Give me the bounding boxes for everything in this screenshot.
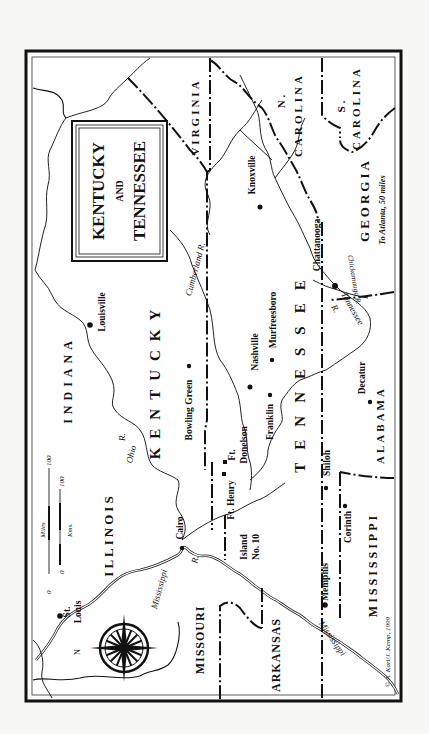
city-label-cairo: Cairo [175,516,185,539]
city-label-knoxville: Knoxville [247,155,257,194]
city-label-ft-henry: Ft. Henry [226,480,236,520]
title-line3: TENNESSEE [130,141,149,241]
corinth-dot [343,504,347,508]
scale-kms-label: Kms. [66,523,74,538]
bowling-green-dot [187,364,191,368]
city-label-chattanooga: Chattanooga [312,219,322,272]
compass-n-label: N [73,649,82,655]
state-label-georgia: GEORGIA [357,158,372,242]
scale-kms-max: 100 [58,476,66,487]
state-label-illinois: ILLINOIS [101,493,116,576]
franklin-dot [268,393,272,397]
decatur-dot [368,400,372,404]
city-label-murfreesboro: Murfreesboro [268,291,278,348]
state-label-nc-abbr: N. [275,92,287,109]
city-label-franklin: Franklin [265,403,275,440]
city-label-nashville: Nashville [250,333,260,370]
title-line1: KENTUCKY [89,142,108,240]
credit-line: © A. Karl/J. Kemp, 1999 [384,617,392,687]
city-label-island-no10-2: No. 10 [251,534,261,560]
shiloh-dot [324,486,328,490]
state-label-mississippi: MISSISSIPPI [366,513,380,617]
state-label-arkansas: ARKANSAS [269,618,283,692]
city-label-decatur: Decatur [357,361,367,394]
scale-kms-zero: 0 [58,570,66,574]
state-label-sc-abbr: S. [335,98,347,113]
city-label-st-louis-1: St. [62,607,72,618]
city-label-island-no10-1: Island [239,534,249,560]
title-line2: AND [114,180,125,202]
city-label-ft-donelson-2: Donelson [239,426,249,464]
city-label-louisville: Louisville [97,292,107,332]
knoxville-dot [258,205,263,210]
cairo-dot [180,546,184,550]
city-label-memphis: Memphis [320,563,330,601]
atlanta-note: To Atlanta, 50 miles [377,174,387,244]
memphis-dot [322,602,328,608]
city-label-bowling-green: Bowling Green [184,379,194,441]
state-label-virginia: VIRGINIA [189,78,201,155]
state-label-kentucky: KENTUCKY [147,301,163,460]
state-label-sc: CAROLINA [350,66,362,150]
state-label-nc: CAROLINA [292,73,304,157]
louisville-dot [87,322,93,328]
title-cartouche: KENTUCKY AND TENNESSEE [72,121,167,261]
city-label-shiloh: Shiloh [322,449,332,476]
state-label-alabama: ALABAMA [374,386,386,464]
state-label-missouri: MISSOURI [193,606,207,675]
map-canvas: KENTUCKY AND TENNESSEE N 0 100 Miles 0 [0,0,429,734]
city-label-ft-donelson-1: Ft. [227,449,237,460]
city-label-st-louis-2: Louis [73,600,83,623]
scale-miles-zero: 0 [45,590,53,594]
scale-miles-label: Miles [39,522,47,539]
ft-henry-dot [222,472,226,476]
river-label-mississippi-upper-r: R. [189,555,200,565]
scale-miles-max: 100 [45,455,53,466]
state-label-tennessee: TENNESSEE [292,267,308,472]
city-label-corinth: Corinth [343,510,353,543]
state-label-indiana: INDIANA [61,336,75,424]
nashville-dot [248,385,253,390]
river-label-ohio-r: R. [117,433,127,442]
chattanooga-dot [332,283,338,289]
murfreesboro-dot [270,358,274,362]
